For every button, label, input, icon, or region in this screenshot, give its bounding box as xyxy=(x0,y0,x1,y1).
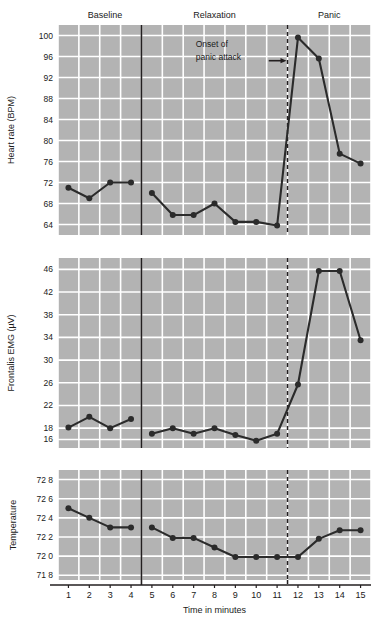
data-point-frontalis-emg xyxy=(170,425,176,431)
x-axis-title: Time in minutes xyxy=(183,605,247,615)
plot-area-frontalis-emg xyxy=(58,258,371,448)
ytick-label-frontalis-emg: 30 xyxy=(44,355,54,365)
ytick-label-frontalis-emg: 42 xyxy=(44,287,54,297)
data-point-frontalis-emg xyxy=(253,438,259,444)
ytick-label-temperature: 72 2 xyxy=(36,532,53,542)
data-point-heart-rate xyxy=(128,180,134,186)
ytick-label-frontalis-emg: 16 xyxy=(44,434,54,444)
data-point-temperature xyxy=(253,554,259,560)
data-point-temperature xyxy=(107,524,113,530)
data-point-frontalis-emg xyxy=(358,337,364,343)
ytick-label-heart-rate: 64 xyxy=(44,220,54,230)
xtick-label: 15 xyxy=(356,590,366,600)
ytick-label-heart-rate: 68 xyxy=(44,199,54,209)
data-point-heart-rate xyxy=(253,219,259,225)
relaxation-label: Relaxation xyxy=(193,10,236,20)
data-point-frontalis-emg xyxy=(86,414,92,420)
ytick-label-frontalis-emg: 26 xyxy=(44,378,54,388)
data-point-frontalis-emg xyxy=(232,432,238,438)
ytick-label-frontalis-emg: 38 xyxy=(44,310,54,320)
annotation-line-2: panic attack xyxy=(196,52,242,62)
data-point-heart-rate xyxy=(86,195,92,201)
ytick-label-heart-rate: 84 xyxy=(44,115,54,125)
data-point-temperature xyxy=(191,535,197,541)
data-point-frontalis-emg xyxy=(107,425,113,431)
ytick-label-frontalis-emg: 18 xyxy=(44,423,54,433)
data-point-heart-rate xyxy=(191,212,197,218)
xtick-label: 11 xyxy=(272,590,281,600)
xtick-label: 13 xyxy=(314,590,324,600)
ytick-label-heart-rate: 96 xyxy=(44,52,54,62)
data-point-temperature xyxy=(232,554,238,560)
xtick-label: 3 xyxy=(108,590,113,600)
xtick-label: 14 xyxy=(335,590,345,600)
data-point-heart-rate xyxy=(295,35,301,41)
data-point-temperature xyxy=(212,544,218,550)
ytick-label-heart-rate: 92 xyxy=(44,73,54,83)
data-point-temperature xyxy=(86,515,92,521)
data-point-frontalis-emg xyxy=(191,431,197,437)
data-point-temperature xyxy=(128,524,134,530)
data-point-temperature xyxy=(316,536,322,542)
ytick-label-temperature: 71 8 xyxy=(36,570,53,580)
ytick-label-heart-rate: 80 xyxy=(44,136,54,146)
xtick-label: 4 xyxy=(129,590,134,600)
panic-label: Panic xyxy=(318,10,341,20)
data-point-heart-rate xyxy=(149,190,155,196)
ytick-label-heart-rate: 100 xyxy=(39,31,53,41)
baseline-label: Baseline xyxy=(88,10,123,20)
ytick-label-heart-rate: 88 xyxy=(44,94,54,104)
psychophysiology-figure: 646872768084889296100Heart rate (BPM)161… xyxy=(0,0,383,628)
ytick-label-frontalis-emg: 34 xyxy=(44,332,54,342)
data-point-heart-rate xyxy=(232,219,238,225)
data-point-frontalis-emg xyxy=(149,431,155,437)
xtick-label: 9 xyxy=(233,590,238,600)
axis-title-temperature: Temperature xyxy=(8,500,18,551)
data-point-frontalis-emg xyxy=(316,268,322,274)
data-point-heart-rate xyxy=(337,151,343,157)
data-point-heart-rate xyxy=(274,223,280,229)
figure-canvas: 646872768084889296100Heart rate (BPM)161… xyxy=(0,0,383,628)
data-point-frontalis-emg xyxy=(295,381,301,387)
xtick-label: 6 xyxy=(170,590,175,600)
data-point-temperature xyxy=(295,554,301,560)
ytick-label-temperature: 72 0 xyxy=(36,551,53,561)
data-point-temperature xyxy=(170,535,176,541)
axis-title-frontalis-emg: Frontalis EMG (µV) xyxy=(6,314,16,391)
xtick-label: 7 xyxy=(191,590,196,600)
ytick-label-frontalis-emg: 46 xyxy=(44,264,54,274)
annotation-line-1: Onset of xyxy=(196,39,229,49)
data-point-heart-rate xyxy=(65,185,71,191)
ytick-label-heart-rate: 72 xyxy=(44,178,54,188)
xtick-label: 2 xyxy=(87,590,92,600)
data-point-frontalis-emg xyxy=(128,416,134,422)
data-point-temperature xyxy=(149,524,155,530)
data-point-frontalis-emg xyxy=(274,431,280,437)
data-point-temperature xyxy=(274,554,280,560)
xtick-label: 10 xyxy=(251,590,261,600)
data-point-heart-rate xyxy=(358,161,364,167)
data-point-frontalis-emg xyxy=(65,425,71,431)
ytick-label-temperature: 72 4 xyxy=(36,513,53,523)
xtick-label: 5 xyxy=(149,590,154,600)
axis-title-heart-rate: Heart rate (BPM) xyxy=(6,96,16,164)
ytick-label-temperature: 72 6 xyxy=(36,494,53,504)
data-point-heart-rate xyxy=(212,201,218,207)
data-point-heart-rate xyxy=(170,212,176,218)
xtick-label: 12 xyxy=(293,590,303,600)
ytick-label-heart-rate: 76 xyxy=(44,157,54,167)
data-point-temperature xyxy=(337,527,343,533)
data-point-temperature xyxy=(358,527,364,533)
data-point-frontalis-emg xyxy=(212,425,218,431)
xtick-label: 8 xyxy=(212,590,217,600)
data-point-heart-rate xyxy=(316,56,322,62)
ytick-label-temperature: 72 8 xyxy=(36,475,53,485)
data-point-temperature xyxy=(65,505,71,511)
ytick-label-frontalis-emg: 22 xyxy=(44,400,54,410)
data-point-frontalis-emg xyxy=(337,268,343,274)
data-point-heart-rate xyxy=(107,180,113,186)
xtick-label: 1 xyxy=(66,590,71,600)
